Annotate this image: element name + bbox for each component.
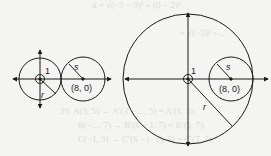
svg-text:29. A(3, 5) → A′(3 − ..., 5) =: 29. A(3, 5) → A′(3 − ..., 5) = A′(1, 5); bbox=[60, 106, 196, 116]
label-center-right: (8, 0) bbox=[219, 84, 240, 94]
diagram-canvas: d = √(−5 − 0)² + (0 − 2)² = √(−5)² + ...… bbox=[0, 0, 271, 156]
label-one-left: 1 bbox=[45, 66, 50, 76]
svg-text:C(−1, 5) → C′(6 − (−1), 5) = C: C(−1, 5) → C′(6 − (−1), 5) = C′(7, 5); bbox=[78, 134, 214, 144]
label-center-left: (8, 0) bbox=[71, 83, 92, 93]
label-s-right: s bbox=[226, 62, 231, 72]
figure-left bbox=[13, 50, 111, 108]
label-one-right: 1 bbox=[191, 66, 196, 76]
bleed-through-text: d = √(−5 − 0)² + (0 − 2)² = √(−5)² + ...… bbox=[60, 0, 227, 144]
label-r-left: r bbox=[41, 90, 45, 100]
label-r-right: r bbox=[203, 102, 207, 112]
svg-text:= √(−5)² + ...: = √(−5)² + ... bbox=[180, 28, 227, 38]
svg-text:d = √(−5 − 0)² + (0 − 2)²: d = √(−5 − 0)² + (0 − 2)² bbox=[92, 0, 181, 10]
label-s-left: s bbox=[74, 62, 79, 72]
